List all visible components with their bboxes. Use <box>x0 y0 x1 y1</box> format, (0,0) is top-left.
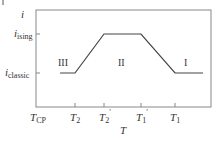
y-tick-label-ising: iising <box>14 27 33 41</box>
y-tick-label-classic: iclassic <box>5 66 30 80</box>
x-tick-label-TCP: TCP <box>30 111 46 125</box>
i-vs-T-curve <box>60 34 203 73</box>
region-label-I: I <box>184 57 187 68</box>
x-tick-label-T1prime: T1′ <box>136 108 148 125</box>
region-label-II: II <box>118 57 125 68</box>
x-tick-label-T2: T2 <box>70 111 80 125</box>
x-tick-label-T1: T1 <box>170 111 180 125</box>
y-axis-label: i <box>21 8 24 20</box>
x-axis-label: T <box>120 124 127 136</box>
x-tick-label-T2prime: T2′ <box>99 108 111 125</box>
crossover-diagram: i iising iclassic III II I TCP T2 T2′ T1… <box>0 0 222 142</box>
region-label-III: III <box>58 57 68 68</box>
